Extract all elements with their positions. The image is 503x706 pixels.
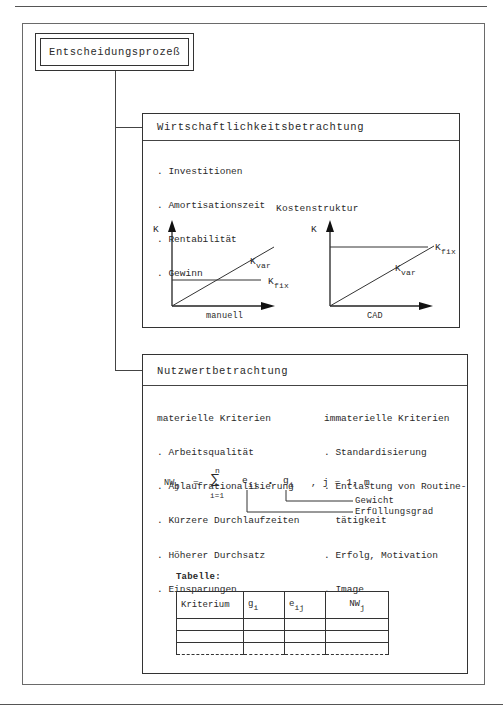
- chart2-x-label: CAD: [367, 310, 383, 322]
- table-header-row: Kriterium gi eij NWj: [177, 592, 389, 619]
- fulfillment-annotation: Erfüllungsgrad: [355, 506, 433, 518]
- table-row: [177, 631, 389, 643]
- utility-box: Nutzwertbetrachtung materielle Kriterien…: [142, 354, 468, 674]
- table-row: [177, 643, 389, 655]
- root-box: Entscheidungsprozeß: [40, 38, 189, 66]
- chart2-fix-label: Kfix: [435, 242, 456, 258]
- economic-box: Wirtschaftlichkeitsbetrachtung . Investi…: [142, 113, 460, 328]
- criteria-table: Kriterium gi eij NWj: [176, 591, 389, 655]
- table-caption: Tabelle:: [176, 571, 221, 583]
- header-utility-value: NWj: [326, 592, 389, 619]
- header-weight: gi: [244, 592, 285, 619]
- connector-economic: [115, 127, 143, 128]
- table-row: [177, 619, 389, 631]
- chart2-var-label: Kvar: [395, 263, 416, 279]
- connector-utility: [115, 370, 143, 371]
- header-fulfillment: eij: [285, 592, 326, 619]
- chart2-axes: [143, 114, 461, 329]
- connector-trunk: [115, 71, 116, 371]
- header-rule: [15, 6, 487, 7]
- header-criterion: Kriterium: [177, 592, 244, 619]
- footer-rule: [0, 704, 503, 705]
- root-label: Entscheidungsprozeß: [49, 46, 180, 58]
